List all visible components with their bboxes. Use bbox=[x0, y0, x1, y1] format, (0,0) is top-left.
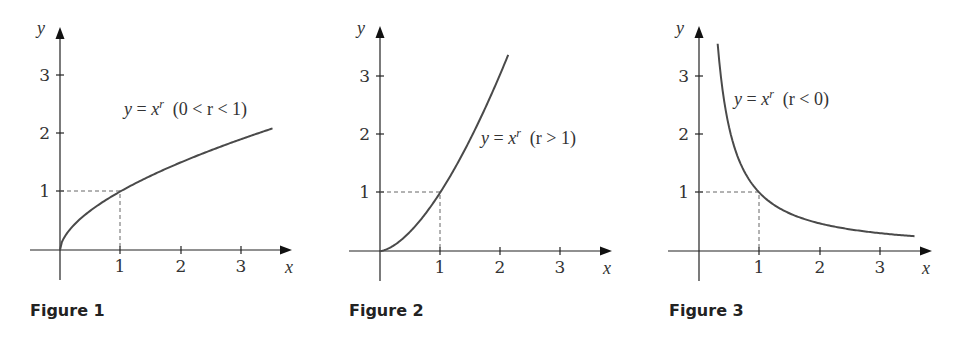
power-curve bbox=[60, 128, 273, 250]
x-tick-label: 2 bbox=[495, 257, 506, 277]
y-tick-label: 2 bbox=[359, 124, 370, 144]
reference-dashed-lines bbox=[380, 192, 440, 251]
figure-3: 1 2 3 1 2 3 x y y = xr (r < 0) bbox=[668, 18, 932, 281]
figures-canvas: 1 2 3 1 2 3 x y y = xr (0 < r < 1) Figur… bbox=[0, 0, 965, 338]
curve-label: y = xr (r > 1) bbox=[479, 126, 576, 149]
figure-1: 1 2 3 1 2 3 x y y = xr (0 < r < 1) bbox=[30, 18, 293, 280]
power-curve bbox=[718, 44, 915, 236]
y-tick-label: 1 bbox=[678, 182, 689, 202]
y-axis-label: y bbox=[674, 18, 684, 38]
reference-dashed-lines bbox=[699, 192, 759, 251]
figure-caption: Figure 2 bbox=[349, 301, 424, 320]
x-axis-arrow-icon bbox=[920, 247, 932, 256]
reference-dashed-lines bbox=[60, 191, 120, 250]
curve-label: y = xr (0 < r < 1) bbox=[122, 97, 247, 120]
y-tick-label: 3 bbox=[678, 66, 689, 86]
x-tick-label: 3 bbox=[236, 256, 247, 276]
x-tick-label: 1 bbox=[754, 257, 765, 277]
y-axis-label: y bbox=[355, 18, 365, 38]
y-axis-arrow-icon bbox=[56, 27, 65, 39]
curve-label: y = xr (r < 0) bbox=[732, 87, 829, 110]
y-tick-label: 3 bbox=[359, 66, 370, 86]
y-tick-label: 3 bbox=[39, 65, 50, 85]
x-axis-label: x bbox=[602, 258, 611, 278]
x-tick-label: 3 bbox=[555, 257, 566, 277]
x-tick-label: 1 bbox=[115, 256, 126, 276]
x-axis-arrow-icon bbox=[280, 246, 292, 255]
y-tick-label: 1 bbox=[39, 181, 50, 201]
x-tick-label: 2 bbox=[176, 256, 187, 276]
x-axis-label: x bbox=[921, 258, 930, 278]
y-axis-arrow-icon bbox=[376, 26, 385, 38]
figure-2: 1 2 3 1 2 3 x y y = xr (r > 1) bbox=[349, 18, 612, 281]
x-tick-label: 2 bbox=[815, 257, 826, 277]
y-tick-label: 2 bbox=[39, 123, 50, 143]
x-tick-label: 3 bbox=[875, 257, 886, 277]
x-axis-arrow-icon bbox=[600, 247, 612, 256]
y-axis-label: y bbox=[35, 18, 45, 38]
y-axis-arrow-icon bbox=[695, 26, 704, 38]
power-curve bbox=[380, 55, 508, 251]
figure-caption: Figure 1 bbox=[30, 301, 105, 320]
y-tick-label: 2 bbox=[678, 124, 689, 144]
x-axis-label: x bbox=[284, 257, 293, 277]
x-tick-label: 1 bbox=[435, 257, 446, 277]
figure-caption: Figure 3 bbox=[669, 301, 744, 320]
y-tick-label: 1 bbox=[359, 182, 370, 202]
